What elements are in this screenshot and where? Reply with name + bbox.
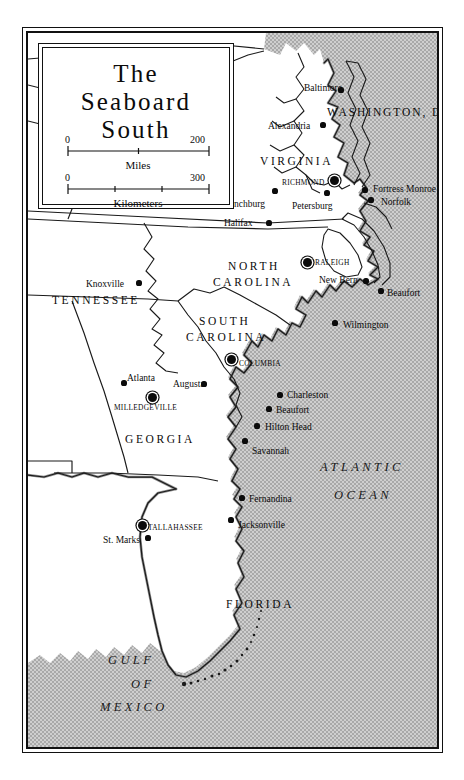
city-marker [266, 220, 271, 225]
city-marker [228, 517, 233, 522]
city-marker [121, 380, 126, 385]
city-marker [363, 278, 368, 283]
scale-bar-miles: 0 200 Miles [43, 145, 229, 171]
map-title-line-1: The [43, 60, 229, 88]
city-marker [201, 381, 206, 386]
map-plot-area: BaltimoreAlexandriaRICHMONDLynchburgPete… [26, 31, 439, 749]
scale-bar-kilometers: 0 300 Kilometers [43, 183, 229, 209]
capital-marker [303, 258, 312, 267]
city-marker [266, 406, 271, 411]
city-marker [242, 438, 247, 443]
map-title-line-2: Seaboard [43, 88, 229, 116]
city-marker [332, 320, 337, 325]
title-legend-box: The Seaboard South 0 200 Miles [38, 43, 234, 209]
city-marker [254, 423, 259, 428]
title-box-inner-rule: The Seaboard South 0 200 Miles [42, 47, 230, 205]
scale-km-bar [43, 183, 233, 195]
city-marker [324, 190, 329, 195]
map-title: The Seaboard South [43, 60, 229, 144]
city-marker [362, 187, 367, 192]
capital-marker [330, 176, 339, 185]
scale-miles-caption: Miles [43, 159, 233, 171]
city-marker [272, 188, 277, 193]
city-marker [320, 122, 325, 127]
city-marker [338, 87, 343, 92]
map-figure: BaltimoreAlexandriaRICHMONDLynchburgPete… [0, 0, 464, 780]
scale-miles-start: 0 [65, 134, 70, 145]
scale-miles-bar [43, 145, 233, 157]
scale-miles-end: 200 [190, 134, 205, 145]
city-marker [368, 197, 373, 202]
city-marker [145, 535, 150, 540]
map-border-frame: BaltimoreAlexandriaRICHMONDLynchburgPete… [22, 27, 443, 753]
city-marker [136, 280, 141, 285]
capital-marker [148, 393, 157, 402]
city-marker [239, 495, 244, 500]
city-marker [277, 392, 282, 397]
capital-marker [227, 355, 236, 364]
city-marker [378, 288, 383, 293]
scale-km-caption: Kilometers [43, 197, 233, 209]
scale-km-start: 0 [65, 172, 70, 183]
scale-km-end: 300 [190, 172, 205, 183]
capital-marker [138, 521, 147, 530]
